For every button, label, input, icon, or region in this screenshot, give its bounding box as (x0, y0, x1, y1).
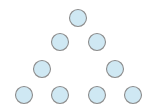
circle-node (16, 87, 33, 104)
circle-node (89, 87, 106, 104)
circle-node (52, 87, 69, 104)
row-2 (52, 34, 106, 51)
circle-node (125, 87, 142, 104)
circle-node (89, 34, 106, 51)
row-4 (16, 87, 142, 104)
diagram-canvas (0, 0, 155, 111)
circle-node (107, 61, 124, 78)
circle-node (70, 10, 87, 27)
row-1 (70, 10, 87, 27)
row-3 (34, 61, 124, 78)
triangle-circle-diagram (0, 0, 155, 111)
circle-node (34, 61, 51, 78)
circle-node (52, 34, 69, 51)
